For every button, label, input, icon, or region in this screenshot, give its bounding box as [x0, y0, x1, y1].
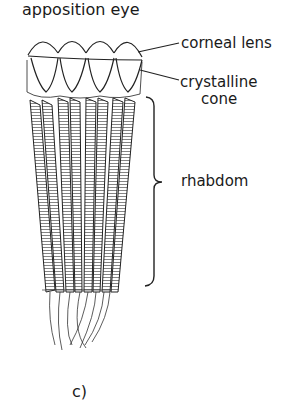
- apposition-eye-drawing: [0, 0, 292, 417]
- rhabdom-bracket: [145, 97, 162, 286]
- nerve-fibers: [42, 290, 112, 350]
- panel-label: c): [72, 384, 87, 400]
- crystalline-cone-layer: [27, 58, 142, 98]
- leader-lines: [138, 43, 179, 80]
- label-crystalline-cone-line1: crystalline: [180, 75, 257, 90]
- label-corneal-lens: corneal lens: [181, 36, 272, 51]
- rhabdom-layer: [30, 98, 135, 292]
- label-rhabdom: rhabdom: [181, 174, 248, 189]
- corneal-lens-layer: [28, 42, 142, 61]
- label-crystalline-cone-line2: cone: [201, 92, 237, 107]
